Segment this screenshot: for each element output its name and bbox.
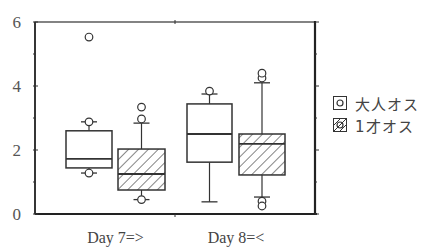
box-one-year-male-day8: [239, 69, 285, 209]
box-adult-male-day8: [187, 87, 232, 202]
y-axis-ticks: 0246: [13, 13, 320, 224]
y-tick-label: 6: [13, 13, 22, 32]
outlier-point: [138, 103, 146, 111]
open-box-swatch-icon: [333, 96, 347, 110]
legend-label: 1才オス: [355, 115, 414, 136]
box-one-year-male-day7: [118, 103, 165, 203]
outlier-point: [258, 202, 266, 210]
y-tick-label: 4: [13, 77, 22, 96]
outlier-point: [206, 87, 214, 95]
y-tick-label: 2: [13, 141, 22, 160]
axes: [35, 21, 317, 214]
box-adult-male-day7: [66, 33, 112, 177]
outlier-point: [85, 169, 93, 177]
boxes: [66, 33, 285, 210]
x-category-label: Day 8=<: [208, 229, 265, 247]
hatched-box-swatch-icon: [333, 118, 347, 132]
outlier-point: [138, 115, 146, 123]
legend-item-one-year-male: 1才オス: [333, 114, 419, 136]
outlier-point: [138, 196, 146, 204]
y-tick-label: 0: [13, 205, 22, 224]
legend-label: 大人オス: [355, 93, 419, 114]
outlier-point: [85, 33, 93, 41]
outlier-point: [258, 69, 266, 77]
outlier-point: [85, 118, 93, 126]
legend-item-adult-male: 大人オス: [333, 92, 419, 114]
x-axis-labels: Day 7=>Day 8=<: [87, 229, 264, 247]
legend: 大人オス 1才オス: [333, 92, 419, 136]
x-category-label: Day 7=>: [87, 229, 144, 247]
